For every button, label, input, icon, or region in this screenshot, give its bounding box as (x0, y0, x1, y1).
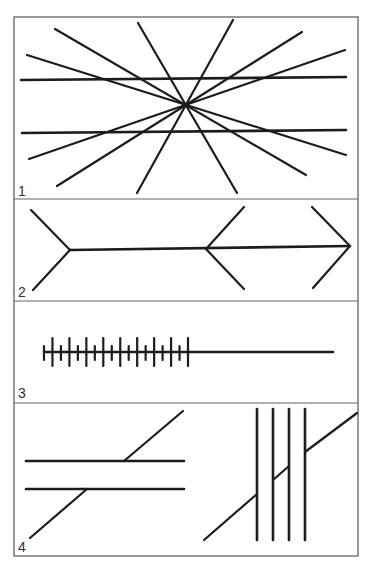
arrow-fin (31, 210, 70, 250)
panel-3-number: 3 (18, 385, 26, 401)
panel-3-oppel-kundt (44, 338, 333, 366)
arrow-fin (206, 249, 244, 289)
oblique-segment (124, 411, 183, 461)
radiating-line (29, 50, 345, 159)
oblique-segment (273, 466, 289, 480)
panel-4-poggendorff (26, 409, 357, 540)
parallel-line (22, 130, 346, 133)
arrow-fin (206, 207, 244, 249)
panel-dividers (14, 199, 358, 403)
oblique-segment (305, 413, 357, 452)
parallel-line (21, 77, 346, 80)
panel-1-number: 1 (18, 183, 26, 199)
arrow-fin (312, 207, 350, 246)
oblique-segment (204, 494, 257, 540)
outer-frame (14, 17, 358, 556)
panel-2-number: 2 (18, 284, 26, 300)
oblique-segment (30, 489, 87, 538)
panel-1-hering (21, 20, 346, 193)
illusions-figure: 1 2 3 4 (0, 0, 376, 568)
radiating-line (138, 23, 237, 193)
radiating-line (57, 32, 302, 186)
arrow-shaft (70, 246, 350, 250)
panel-2-muller-lyer (31, 207, 350, 290)
arrow-fin (313, 246, 350, 288)
arrow-fin (33, 250, 70, 290)
panel-4-number: 4 (18, 539, 26, 555)
